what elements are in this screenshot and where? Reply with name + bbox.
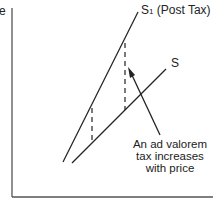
s1-curve-label: S1 (Post Tax) (141, 4, 211, 18)
arrow-head-icon (128, 67, 135, 78)
annotation-line-1: An ad valorem (120, 138, 213, 150)
annotation-line-2: tax increases (120, 150, 213, 162)
annotation-line-3: with price (120, 162, 213, 174)
annotation-arrow (131, 73, 160, 135)
annotation-text: An ad valorem tax increases with price (120, 138, 213, 174)
s1-label-suffix: (Post Tax) (153, 3, 210, 17)
s-curve-label: S (171, 57, 179, 70)
y-axis-label: e (0, 5, 6, 18)
s1-label-main: S (141, 3, 149, 17)
